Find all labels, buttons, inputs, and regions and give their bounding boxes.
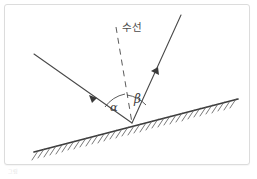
figure-caption: 그림 [8, 168, 19, 175]
figure-frame: 수선 α β [4, 4, 250, 165]
angle-alpha-label: α [110, 100, 118, 114]
figure-root: 수선 α β 그림 [0, 0, 257, 179]
reflected-ray-arrowhead [151, 67, 159, 75]
reflecting-surface-line [34, 99, 238, 152]
normal-dashed-line [116, 27, 132, 123]
angle-beta-label: β [133, 92, 141, 106]
reflection-diagram: 수선 α β [5, 5, 249, 164]
normal-line-label: 수선 [122, 21, 142, 33]
surface-hatching [32, 99, 236, 160]
